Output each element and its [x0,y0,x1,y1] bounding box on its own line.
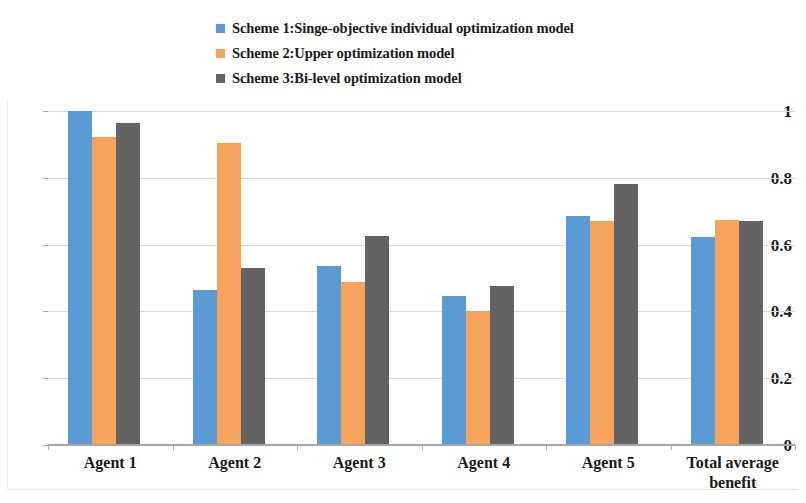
legend-swatch-scheme-3 [216,74,225,83]
x-axis-label-agent-1: Agent 1 [48,453,173,473]
x-tick-mark-1 [173,445,174,450]
legend-item-scheme-3: Scheme 3:Bi-level optimization model [216,66,686,91]
legend-item-scheme-1: Scheme 1:Singe-objective individual opti… [216,16,686,41]
x-tick-mark-6 [795,445,796,450]
x-tick-mark-2 [297,445,298,450]
x-axis-label-agent-5: Agent 5 [546,453,671,473]
legend-label-scheme-2: Scheme 2:Upper optimization model [232,46,454,61]
y-tick-mark-0.2 [43,378,48,379]
bar-agent-2-series-3 [241,268,265,445]
scan-artifact-line-bottom [8,489,798,490]
gridline-0.6 [48,245,795,246]
bar-agent-3-series-2 [341,282,365,445]
x-tick-mark-origin [48,445,49,450]
plot-area [48,111,795,445]
legend-swatch-scheme-1 [216,24,225,33]
gridline-0.4 [48,311,795,312]
scan-artifact-line-left [7,100,8,490]
bar-chart-figure: Scheme 1:Singe-objective individual opti… [0,0,806,503]
x-tick-mark-5 [671,445,672,450]
bar-total-average-benefit-series-2 [715,220,739,445]
gridline-0.8 [48,178,795,179]
bar-total-average-benefit-series-1 [691,237,715,445]
bar-agent-3-series-3 [365,236,389,445]
legend-item-scheme-2: Scheme 2:Upper optimization model [216,41,686,66]
y-tick-mark-1 [43,111,48,112]
gridline-0.2 [48,378,795,379]
bar-agent-1-series-2 [92,137,116,445]
legend-swatch-scheme-2 [216,49,225,58]
bar-agent-4-series-1 [442,296,466,445]
x-axis-label-agent-4: Agent 4 [422,453,547,473]
bar-agent-2-series-2 [217,143,241,445]
bar-agent-4-series-3 [490,286,514,445]
bar-agent-1-series-1 [68,111,92,445]
bar-agent-5-series-1 [566,216,590,445]
bar-agent-5-series-2 [590,221,614,445]
bar-agent-5-series-3 [614,184,638,445]
y-tick-mark-0.8 [43,178,48,179]
bar-agent-2-series-1 [193,290,217,445]
y-tick-mark-0.6 [43,245,48,246]
x-tick-mark-3 [422,445,423,450]
bar-agent-4-series-2 [466,311,490,445]
x-axis-label-total-average-benefit: Total average benefit [671,453,796,493]
y-tick-mark-0.4 [43,311,48,312]
gridline-1 [48,111,795,112]
legend-label-scheme-1: Scheme 1:Singe-objective individual opti… [232,21,574,36]
legend-label-scheme-3: Scheme 3:Bi-level optimization model [232,71,462,86]
chart-legend: Scheme 1:Singe-objective individual opti… [216,16,686,91]
x-axis-label-agent-3: Agent 3 [297,453,422,473]
bar-total-average-benefit-series-3 [739,221,763,445]
bar-agent-3-series-1 [317,266,341,445]
x-axis-label-agent-2: Agent 2 [173,453,298,473]
bar-agent-1-series-3 [116,123,140,445]
x-tick-mark-4 [546,445,547,450]
